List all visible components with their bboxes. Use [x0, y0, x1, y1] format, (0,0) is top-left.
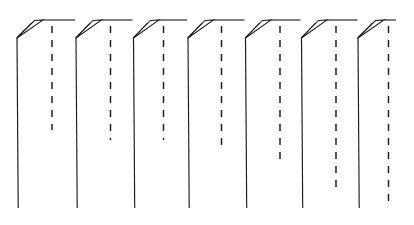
fold-crease-line	[188, 23, 202, 38]
figure-root	[0, 0, 414, 225]
fold-barb	[188, 20, 214, 38]
fold-barb	[17, 20, 43, 38]
riser-group	[17, 38, 359, 208]
riser-line	[76, 38, 77, 208]
fold-barb-group	[17, 20, 384, 38]
riser-line	[302, 38, 303, 208]
fold-crease-line	[358, 23, 373, 38]
fold-crease-line	[76, 23, 90, 38]
centerline-group	[52, 26, 389, 208]
fold-barb	[358, 20, 384, 38]
riser-line	[246, 38, 247, 208]
fold-barb	[134, 20, 160, 38]
fold-crease-line	[134, 23, 148, 38]
riser-line	[134, 38, 135, 208]
fold-barb	[246, 20, 272, 38]
riser-line	[358, 38, 359, 208]
riser-line	[188, 38, 189, 208]
fold-crease-line	[17, 23, 32, 38]
fold-crease-line	[302, 23, 316, 38]
fold-barb	[76, 20, 102, 38]
fold-crease-line	[246, 23, 260, 38]
fold-barb	[302, 20, 328, 38]
riser-line	[17, 38, 18, 208]
pleat-profile-drawing	[0, 0, 414, 225]
